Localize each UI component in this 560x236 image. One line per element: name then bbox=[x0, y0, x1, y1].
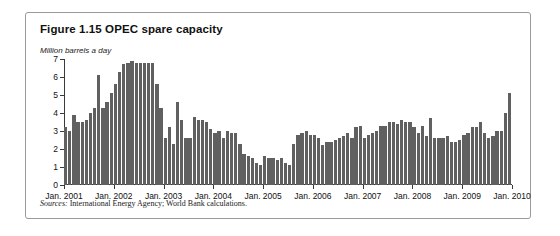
bar bbox=[155, 84, 158, 185]
bar bbox=[346, 133, 349, 185]
x-tick-mark bbox=[412, 185, 413, 189]
bar bbox=[205, 122, 208, 185]
y-tick-label: 6 bbox=[53, 73, 58, 82]
bar bbox=[321, 145, 324, 185]
bar bbox=[383, 126, 386, 185]
bar bbox=[300, 133, 303, 185]
bar bbox=[143, 63, 146, 185]
bar bbox=[429, 118, 432, 185]
bar bbox=[64, 127, 67, 185]
bar bbox=[475, 127, 478, 185]
bar bbox=[118, 72, 121, 185]
bar bbox=[466, 133, 469, 185]
bar bbox=[379, 126, 382, 185]
source-text: International Energy Agency; World Bank … bbox=[68, 199, 247, 208]
bar bbox=[454, 142, 457, 185]
bar bbox=[122, 64, 125, 185]
bar bbox=[334, 140, 337, 185]
x-tick-label: Jan. 2005 bbox=[244, 191, 281, 201]
x-tick-mark bbox=[462, 185, 463, 189]
bar bbox=[110, 93, 113, 185]
chart-plot-area: 01234567 Jan. 2001Jan. 2002Jan. 2003Jan.… bbox=[64, 59, 512, 185]
bar bbox=[135, 63, 138, 185]
y-tick-label: 2 bbox=[53, 145, 58, 154]
bar bbox=[425, 136, 428, 185]
bar bbox=[130, 61, 133, 185]
bar bbox=[479, 122, 482, 185]
bar bbox=[400, 120, 403, 185]
bar bbox=[338, 138, 341, 185]
bar bbox=[508, 93, 511, 185]
bar bbox=[247, 156, 250, 185]
bar bbox=[309, 135, 312, 185]
bar bbox=[408, 122, 411, 185]
bar bbox=[280, 158, 283, 185]
bar bbox=[495, 131, 498, 185]
bar bbox=[97, 75, 100, 185]
bar bbox=[396, 124, 399, 185]
bar bbox=[267, 158, 270, 185]
bar bbox=[255, 163, 258, 185]
bar bbox=[176, 102, 179, 185]
x-tick-label: Jan. 2008 bbox=[394, 191, 431, 201]
bar bbox=[458, 140, 461, 185]
bar bbox=[350, 138, 353, 185]
bar bbox=[72, 115, 75, 185]
bar bbox=[296, 135, 299, 185]
x-tick-label: Jan. 2009 bbox=[444, 191, 481, 201]
bar bbox=[313, 135, 316, 185]
bar bbox=[201, 120, 204, 185]
bar bbox=[222, 138, 225, 185]
y-tick-label: 5 bbox=[53, 91, 58, 100]
bar bbox=[213, 133, 216, 185]
bar bbox=[209, 129, 212, 185]
bar bbox=[230, 133, 233, 185]
figure-panel: Figure 1.15 OPEC spare capacity Million … bbox=[25, 12, 531, 219]
bar bbox=[217, 131, 220, 185]
bar bbox=[471, 127, 474, 185]
x-tick-mark bbox=[313, 185, 314, 189]
x-tick-mark bbox=[164, 185, 165, 189]
bar bbox=[504, 113, 507, 185]
bar bbox=[437, 138, 440, 185]
bar bbox=[263, 156, 266, 185]
x-tick-label: Jan. 2007 bbox=[344, 191, 381, 201]
bar bbox=[325, 142, 328, 185]
bar bbox=[359, 126, 362, 185]
bar bbox=[68, 131, 71, 185]
source-label: Sources: bbox=[40, 199, 68, 208]
bar bbox=[93, 108, 96, 185]
bar bbox=[500, 131, 503, 185]
y-tick-label: 0 bbox=[53, 181, 58, 190]
x-tick-label: Jan. 2006 bbox=[294, 191, 331, 201]
bar bbox=[483, 133, 486, 185]
bar bbox=[184, 138, 187, 185]
x-tick-mark bbox=[114, 185, 115, 189]
bar bbox=[375, 131, 378, 185]
bar bbox=[126, 63, 129, 185]
source-note: Sources: International Energy Agency; Wo… bbox=[40, 199, 247, 208]
bar bbox=[329, 142, 332, 185]
bar bbox=[197, 120, 200, 185]
bar bbox=[487, 138, 490, 185]
x-tick-mark bbox=[64, 185, 65, 189]
bar bbox=[292, 144, 295, 185]
bar bbox=[388, 122, 391, 185]
bar bbox=[392, 122, 395, 185]
bar bbox=[305, 131, 308, 185]
bar bbox=[404, 122, 407, 185]
bar bbox=[317, 138, 320, 185]
bar bbox=[159, 108, 162, 185]
x-tick-mark bbox=[363, 185, 364, 189]
bar bbox=[421, 126, 424, 185]
y-axis-units-label: Million barrels a day bbox=[40, 46, 111, 55]
bar bbox=[242, 154, 245, 185]
bar bbox=[462, 135, 465, 185]
bar bbox=[354, 127, 357, 185]
x-tick-mark bbox=[213, 185, 214, 189]
bar bbox=[114, 84, 117, 185]
bar bbox=[367, 135, 370, 185]
bar bbox=[363, 138, 366, 185]
bar bbox=[85, 120, 88, 185]
bar bbox=[168, 127, 171, 185]
